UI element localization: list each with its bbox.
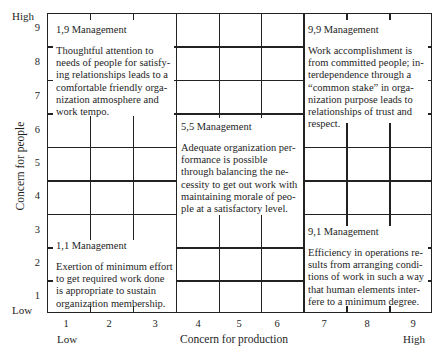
style-box-9-9: 9,9 Management Work accomplishment is fr…: [305, 20, 428, 123]
x-axis-high-label: High: [403, 333, 425, 345]
y-tick: 9: [26, 22, 40, 33]
y-tick: 8: [26, 56, 40, 67]
x-axis-label: Concern for production: [180, 333, 288, 345]
x-tick: 9: [403, 318, 423, 329]
x-tick: 7: [314, 318, 334, 329]
style-title: 5,5 Management: [181, 121, 303, 133]
y-tick: 3: [26, 224, 40, 235]
style-description: Efficiency in operations re- sults from …: [308, 247, 428, 308]
y-axis-low-label: Low: [12, 304, 32, 316]
style-title: 1,9 Management: [56, 24, 174, 36]
style-box-9-1: 9,1 Management Efficiency in operations …: [305, 226, 428, 306]
y-tick: 2: [26, 257, 40, 268]
style-description: Adequate organization per- formance is p…: [181, 142, 303, 215]
y-tick: 4: [26, 190, 40, 201]
style-title: 9,9 Management: [308, 24, 428, 36]
y-tick: 7: [26, 90, 40, 101]
style-description: Work accomplishment is from committed pe…: [308, 45, 428, 130]
style-description: Exertion of minimum effort to get requir…: [56, 261, 176, 310]
style-box-5-5: 5,5 Management Adequate organization per…: [177, 118, 303, 215]
x-tick: 1: [56, 318, 76, 329]
y-tick: 1: [26, 290, 40, 301]
y-tick: 5: [26, 157, 40, 168]
style-title: 9,1 Management: [308, 226, 428, 238]
y-axis-label: Concern for people: [14, 111, 26, 221]
x-tick: 8: [357, 318, 377, 329]
x-tick: 5: [229, 318, 249, 329]
style-description: Thoughtful attention to needs of people …: [56, 45, 174, 118]
x-axis-low-label: Low: [57, 333, 77, 345]
x-tick: 6: [267, 318, 287, 329]
style-box-1-9: 1,9 Management Thoughtful attention to n…: [53, 20, 174, 116]
x-tick: 3: [145, 318, 165, 329]
y-tick: 6: [26, 124, 40, 135]
x-tick: 4: [188, 318, 208, 329]
style-title: 1,1 Management: [56, 240, 176, 252]
x-tick: 2: [99, 318, 119, 329]
y-axis-high-label: High: [12, 10, 34, 22]
style-box-1-1: 1,1 Management Exertion of minimum effor…: [53, 240, 176, 306]
